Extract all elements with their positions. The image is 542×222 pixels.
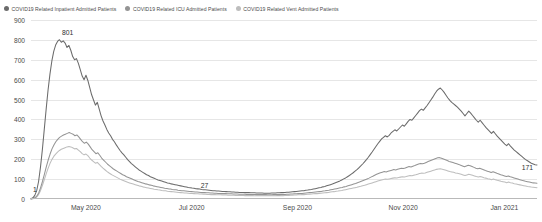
y-axis-label: 800	[14, 36, 25, 43]
y-axis-label: 600	[14, 76, 25, 83]
y-axis-label: 500	[14, 96, 25, 103]
y-axis-label: 300	[14, 136, 25, 143]
circle-icon	[236, 6, 241, 11]
data-point-label: 27	[201, 182, 209, 190]
chart-legend: COVID19 Related Inpatient Admitted Patie…	[4, 3, 339, 14]
y-axis-label: 400	[14, 116, 25, 123]
x-axis-label: Jan 2021	[490, 204, 518, 212]
data-point-label: 801	[62, 29, 73, 37]
x-axis-tick-labels: May 2020Jul 2020Sep 2020Nov 2020Jan 2021	[31, 201, 537, 217]
legend-item-label: COVID19 Related ICU Admitted Patients	[133, 6, 227, 12]
series-line	[31, 133, 537, 199]
series-line	[31, 146, 537, 199]
covid-hospitalization-line-chart: COVID19 Related Inpatient Admitted Patie…	[0, 0, 542, 222]
data-point-label: 1	[33, 186, 37, 194]
y-axis-tick-labels: 0100200300400500600700800900	[0, 20, 28, 199]
circle-icon	[4, 6, 9, 11]
legend-item[interactable]: COVID19 Related Vent Admitted Patients	[236, 6, 339, 12]
series-line	[31, 40, 537, 199]
plot-area: 180127171	[31, 20, 537, 199]
y-axis-label: 200	[14, 156, 25, 163]
x-axis-label: May 2020	[71, 204, 101, 212]
legend-item-label: COVID19 Related Inpatient Admitted Patie…	[12, 6, 117, 12]
y-axis-label: 100	[14, 176, 25, 183]
legend-item-label: COVID19 Related Vent Admitted Patients	[243, 6, 338, 12]
circle-icon	[125, 6, 130, 11]
y-axis-label: 700	[14, 56, 25, 63]
legend-item[interactable]: COVID19 Related ICU Admitted Patients	[125, 6, 226, 12]
data-point-label: 171	[522, 164, 533, 172]
x-axis-label: Sep 2020	[283, 204, 312, 212]
x-axis-label: Jul 2020	[179, 204, 205, 212]
y-axis-label: 0	[21, 196, 25, 203]
series-lines	[31, 20, 537, 199]
y-axis-label: 900	[14, 17, 25, 24]
x-axis-label: Nov 2020	[389, 204, 418, 212]
x-axis-line	[31, 198, 537, 199]
legend-item[interactable]: COVID19 Related Inpatient Admitted Patie…	[4, 6, 116, 12]
